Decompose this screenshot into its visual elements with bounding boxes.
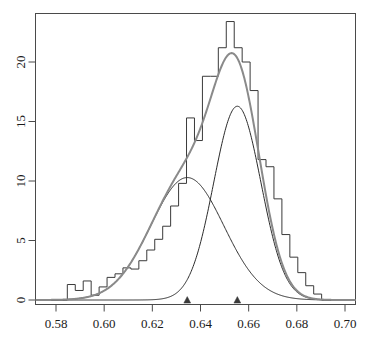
mean-marker-2 <box>234 297 241 303</box>
component-curves <box>36 106 356 300</box>
x-tick-label-0.66: 0.66 <box>237 316 260 331</box>
y-tick-label-10: 10 <box>13 175 28 188</box>
x-tick-label-0.68: 0.68 <box>285 316 308 331</box>
component-curve-2 <box>36 106 356 300</box>
x-axis-tick-labels: 0.580.600.620.640.660.680.70 <box>45 316 357 331</box>
x-axis-ticks <box>56 305 345 312</box>
chart-figure: 0.580.600.620.640.660.680.70 05101520 <box>0 0 370 349</box>
x-tick-label-0.60: 0.60 <box>93 316 116 331</box>
x-tick-label-0.62: 0.62 <box>141 316 164 331</box>
component-mean-markers <box>184 297 241 303</box>
mixture-density-curve <box>36 53 356 300</box>
mixture-density-plot: 0.580.600.620.640.660.680.70 05101520 <box>0 0 370 349</box>
y-tick-label-20: 20 <box>13 56 28 69</box>
mean-marker-1 <box>184 297 191 303</box>
y-axis-ticks <box>29 62 36 300</box>
y-tick-label-5: 5 <box>13 237 28 244</box>
x-tick-label-0.64: 0.64 <box>189 316 212 331</box>
x-tick-label-0.58: 0.58 <box>45 316 68 331</box>
y-tick-label-15: 15 <box>13 115 28 128</box>
mixture-curve <box>36 53 356 300</box>
y-tick-label-0: 0 <box>13 297 28 304</box>
y-axis-tick-labels: 05101520 <box>13 56 28 304</box>
x-tick-label-0.70: 0.70 <box>334 316 357 331</box>
